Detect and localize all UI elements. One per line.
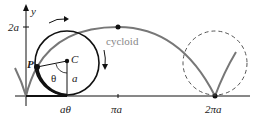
label-cycloid: cycloid (106, 35, 139, 47)
rotation-arrow-right-icon (104, 50, 105, 66)
point-P (34, 64, 40, 70)
rotation-arrow-top-icon (49, 19, 65, 23)
label-C: C (71, 53, 79, 65)
y-axis-arrow-icon (23, 4, 29, 11)
label-theta: θ (51, 72, 56, 84)
point-2pi-a (213, 94, 218, 99)
label-pi-a: πa (111, 103, 123, 115)
point-C (65, 59, 69, 63)
point-peak (116, 25, 121, 30)
label-y: y (30, 5, 36, 17)
rotation-arrowhead-right-icon (102, 64, 108, 70)
label-2pi-a: 2πa (205, 103, 222, 115)
label-a-theta: aθ (60, 103, 72, 115)
radius-PC (37, 61, 67, 67)
theta-arc (56, 64, 67, 73)
cycloid-diagram: y 2a P C θ a cycloid aθ πa 2πa (0, 0, 263, 121)
label-a: a (72, 72, 78, 84)
label-P: P (27, 58, 34, 70)
label-2a: 2a (8, 21, 20, 33)
rotation-arrowhead-top-icon (64, 16, 69, 22)
